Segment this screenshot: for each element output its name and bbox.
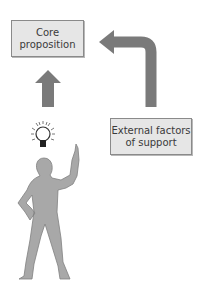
- core-proposition-line2: proposition: [20, 39, 76, 51]
- person-figure: [18, 144, 79, 279]
- light-bulb-icon: [31, 121, 55, 147]
- up-arrow-icon: [35, 70, 61, 107]
- external-factors-box: External factors of support: [110, 118, 192, 155]
- core-proposition-box: Core proposition: [11, 20, 84, 57]
- external-factors-line1: External factors: [111, 125, 190, 137]
- core-proposition-line1: Core: [36, 27, 59, 39]
- external-factors-line2: of support: [125, 137, 176, 149]
- curved-arrow-icon: [99, 30, 151, 107]
